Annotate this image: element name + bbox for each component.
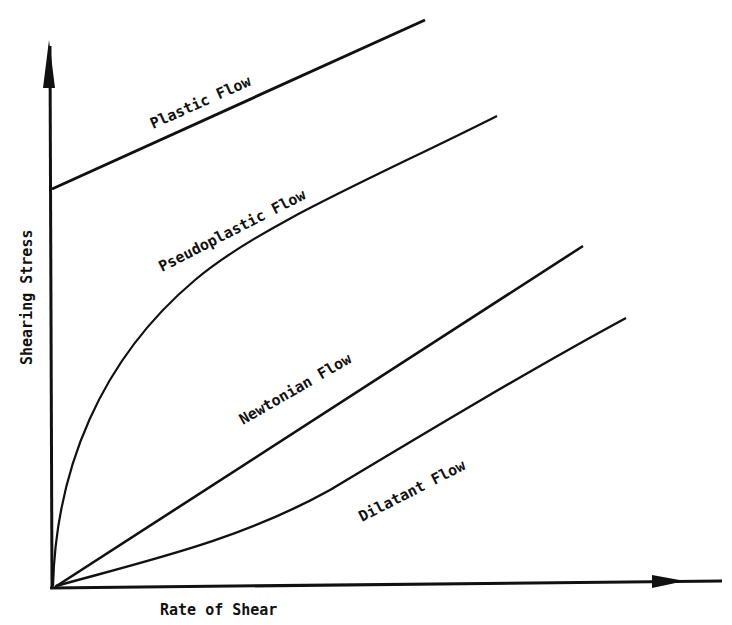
- dilatant-flow-label: Dilatant Flow: [356, 456, 470, 526]
- x-axis-arrow-icon: [652, 575, 685, 588]
- y-axis-title: Shearing Stress: [18, 230, 36, 365]
- x-axis: [50, 581, 722, 588]
- plastic-flow-label: Plastic Flow: [147, 72, 254, 133]
- plastic-flow-line: [52, 20, 425, 189]
- x-axis-title: Rate of Shear: [160, 601, 277, 619]
- y-axis: [50, 46, 52, 588]
- newtonian-flow-label: Newtonian Flow: [236, 349, 355, 428]
- pseudoplastic-flow-curve: [53, 116, 497, 586]
- y-axis-arrow-icon: [43, 40, 55, 88]
- pseudoplastic-flow-label: Pseudoplastic Flow: [156, 185, 310, 275]
- rheology-flow-chart: Plastic Flow Pseudoplastic Flow Newtonia…: [0, 0, 732, 625]
- newtonian-flow-line: [55, 246, 583, 587]
